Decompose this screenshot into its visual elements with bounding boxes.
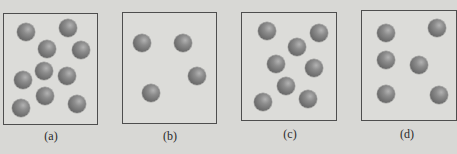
sphere-particle-icon [377,85,395,103]
sphere-particle-icon [428,19,446,37]
sphere-particle-icon [377,24,395,42]
sphere-particle-icon [12,99,30,117]
sphere-particle-icon [299,90,317,108]
sphere-particle-icon [59,19,77,37]
sphere-particle-icon [267,55,285,73]
sphere-particle-icon [35,62,53,80]
sphere-particle-icon [174,34,192,52]
panel-a-label: (a) [44,129,57,144]
panel-b-box [122,12,217,124]
sphere-particle-icon [188,67,206,85]
sphere-particle-icon [310,24,328,42]
sphere-particle-icon [258,22,276,40]
sphere-particle-icon [133,34,151,52]
sphere-particle-icon [14,71,32,89]
sphere-particle-icon [38,40,56,58]
panel-d-label: (d) [400,127,414,142]
panel-c-label: (c) [283,127,296,142]
sphere-particle-icon [58,67,76,85]
sphere-particle-icon [142,84,160,102]
sphere-particle-icon [430,86,448,104]
sphere-particle-icon [72,41,90,59]
sphere-particle-icon [36,87,54,105]
sphere-particle-icon [17,23,35,41]
sphere-particle-icon [305,59,323,77]
sphere-particle-icon [277,77,295,95]
panel-b-label: (b) [163,129,177,144]
sphere-particle-icon [410,56,428,74]
sphere-particle-icon [68,95,86,113]
sphere-particle-icon [288,38,306,56]
sphere-particle-icon [254,93,272,111]
sphere-particle-icon [377,51,395,69]
